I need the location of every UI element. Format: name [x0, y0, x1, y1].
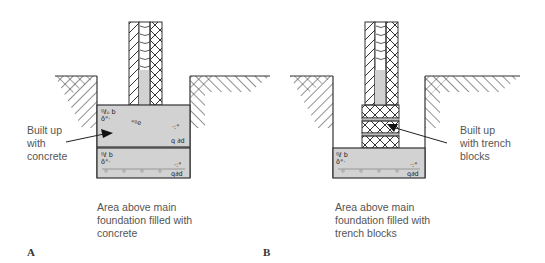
cavity-wall-a [129, 22, 162, 105]
caption-a: Area above main foundation filled with c… [97, 201, 192, 239]
svg-text:q∂d: q∂d [171, 170, 183, 178]
ground-right-b [425, 76, 520, 128]
svg-text:ô°·: ô°· [336, 158, 345, 166]
panel-letter-a: A [27, 246, 35, 258]
svg-text:q ∂d: q ∂d [171, 137, 185, 145]
caption-b: Area above main foundation filled with t… [335, 201, 430, 239]
cavity-wall-b [365, 22, 398, 105]
ground-left-a [55, 76, 97, 128]
panel-letter-b: B [263, 246, 270, 258]
svg-text:·:°: ·:° [172, 123, 180, 131]
svg-text:ô°·: ô°· [101, 115, 110, 123]
svg-text:q∂d: q∂d [407, 170, 419, 178]
svg-text:·:°: ·:° [410, 161, 418, 169]
ground-right-a [190, 76, 270, 128]
callout-label-b: Built up with trench blocks [460, 124, 511, 162]
callout-label-a: Built up with concrete [27, 124, 67, 162]
svg-text:·:°: ·:° [174, 161, 182, 169]
ground-left-b [290, 76, 333, 128]
callout-arrow-b [392, 127, 447, 143]
svg-text:ô°·: ô°· [101, 158, 110, 166]
panel-a-drawing: ºℓ₀ bô°· °ºe ·:°q ∂d ºℓ bô°· ·:°q∂d [55, 22, 270, 178]
svg-text:°ºe: °ºe [131, 119, 141, 127]
